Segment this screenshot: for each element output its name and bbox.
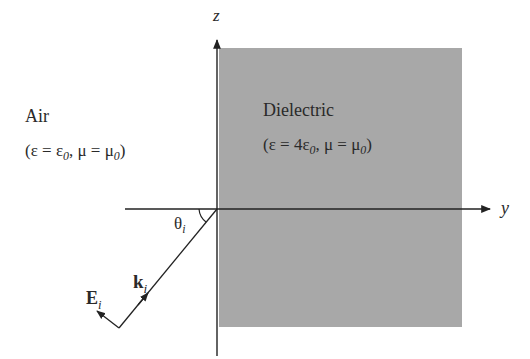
dielectric-label: Dielectric [263, 100, 334, 121]
theta-i-label: θi [174, 214, 185, 237]
angle-arc [199, 209, 206, 222]
dielectric-region [219, 48, 462, 327]
e-i-label: Ei [86, 288, 102, 313]
air-params: (ε = ε0, μ = μ0) [25, 141, 125, 164]
diagram-canvas [0, 0, 530, 359]
e-vector [97, 311, 119, 328]
k-vector-line [119, 209, 217, 328]
k-i-label: ki [133, 271, 147, 297]
y-axis-label: y [501, 198, 509, 219]
dielectric-params: (ε = 4ε0, μ = μ0) [263, 135, 372, 158]
z-axis-label: z [213, 6, 220, 26]
air-label: Air [25, 106, 49, 127]
